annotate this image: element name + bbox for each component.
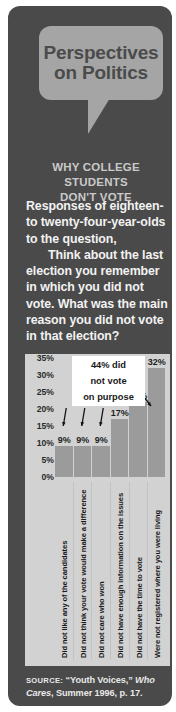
bar[interactable]: [55, 446, 74, 477]
y-axis: 35%30%25%20%15%10%5%0%: [27, 354, 54, 481]
body-text: Responses of eighteen- to twenty-four-ye…: [26, 198, 168, 345]
bar-value-label: 9%: [55, 435, 74, 445]
x-axis-categories: Did not like any of the candidatesDid no…: [55, 482, 166, 660]
source-label: SOURCE:: [26, 676, 63, 685]
subtitle-line-1: WHY COLLEGE STUDENTS: [20, 160, 172, 190]
bar-value-label: 32%: [148, 357, 167, 367]
speech-bubble-tail-icon: [88, 98, 110, 134]
bar[interactable]: [148, 368, 167, 477]
info-panel: Perspectives on Politics WHY COLLEGE STU…: [8, 6, 172, 706]
x-axis-category: Did not care who won: [92, 482, 111, 660]
x-axis-category-label: Did not have the time to vote: [134, 557, 143, 658]
annotation-line-1: 44% did: [72, 357, 145, 373]
title-line-2: on Politics: [44, 63, 159, 83]
bar-value-label: 17%: [111, 408, 130, 418]
x-axis-category-label: Were not registered where you were livin…: [153, 510, 162, 658]
bar[interactable]: [74, 446, 93, 477]
x-axis-category-label: Did not like any of the candidates: [59, 541, 68, 658]
x-axis-category: Were not registered where you were livin…: [148, 482, 166, 660]
source-text-1: “Youth Voices,”: [63, 675, 135, 685]
y-axis-tick: 5%: [27, 456, 54, 465]
y-axis-tick: 30%: [27, 371, 54, 380]
y-axis-tick: 0%: [27, 473, 54, 482]
x-axis-category: Did not have enough information on the i…: [111, 482, 130, 660]
x-axis-category-label: Did not care who won: [97, 582, 106, 658]
source-text-2: , Summer 1996, p. 17.: [51, 688, 142, 698]
bar[interactable]: [111, 419, 130, 477]
title-line-1: Perspectives: [44, 43, 159, 63]
body-paragraph-1: Responses of eighteen- to twenty-four-ye…: [26, 198, 168, 247]
bar[interactable]: [129, 402, 148, 477]
figure-container: Perspectives on Politics WHY COLLEGE STU…: [0, 0, 176, 712]
bar-cell[interactable]: 9%: [55, 358, 74, 477]
annotation-line-3: on purpose: [72, 389, 145, 405]
x-axis-category-label: Did not have enough information on the i…: [115, 493, 124, 658]
bar-value-label: 9%: [92, 435, 111, 445]
bar[interactable]: [92, 446, 111, 477]
bar-cell[interactable]: 32%: [148, 358, 167, 477]
annotation-callout: 44% did not vote on purpose: [72, 356, 145, 406]
x-axis-category: Did not like any of the candidates: [55, 482, 74, 660]
body-paragraph-2: Think about the last election you rememb…: [26, 247, 168, 345]
x-axis-category: Did not have the time to vote: [130, 482, 149, 660]
y-axis-tick: 20%: [27, 405, 54, 414]
y-axis-tick: 15%: [27, 422, 54, 431]
bar-value-label: 9%: [74, 435, 93, 445]
page-title: Perspectives on Politics: [40, 43, 163, 83]
y-axis-tick: 10%: [27, 439, 54, 448]
y-axis-tick: 25%: [27, 388, 54, 397]
title-badge: Perspectives on Politics: [39, 26, 163, 100]
x-axis-category: Did not think your vote would make a dif…: [74, 482, 93, 660]
x-axis-category-label: Did not think your vote would make a dif…: [78, 490, 87, 658]
source-note: SOURCE: “Youth Voices,” Who Cares, Summe…: [26, 674, 166, 700]
annotation-line-2: not vote: [72, 373, 145, 389]
bar-chart: 35%30%25%20%15%10%5%0% 9%9%9%17%22%32% 4…: [25, 354, 170, 666]
y-axis-tick: 35%: [27, 354, 54, 363]
